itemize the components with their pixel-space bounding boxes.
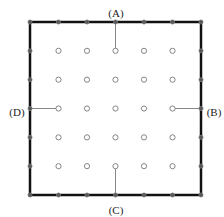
border-node [199, 164, 203, 168]
border-node [57, 193, 61, 197]
border-node [199, 20, 203, 24]
interior-node [170, 106, 175, 111]
interior-node [56, 48, 61, 53]
interior-node [170, 164, 175, 169]
interior-node [56, 164, 61, 169]
interior-node [141, 77, 146, 82]
interior-node [84, 77, 89, 82]
interior-node [56, 77, 61, 82]
border-node [28, 78, 32, 82]
border-node [171, 193, 175, 197]
label-c: (C) [109, 204, 124, 217]
border-node [85, 193, 89, 197]
border-node [171, 20, 175, 24]
border-node [199, 49, 203, 53]
interior-node [113, 77, 118, 82]
border-node [142, 20, 146, 24]
interior-node [113, 48, 118, 53]
resistor-grid-diagram: (A) (B) (C) (D) [0, 0, 224, 217]
interior-node [141, 135, 146, 140]
interior-node [170, 77, 175, 82]
interior-node [141, 164, 146, 169]
interior-node [170, 48, 175, 53]
border-node [114, 20, 118, 24]
border-node [199, 78, 203, 82]
border-node [28, 20, 32, 24]
label-a: (A) [108, 7, 124, 20]
label-d: (D) [9, 106, 25, 119]
interior-node [170, 135, 175, 140]
border-node [57, 20, 61, 24]
interior-node [84, 135, 89, 140]
border-node [114, 193, 118, 197]
interior-node [141, 106, 146, 111]
interior-node [56, 106, 61, 111]
border-node [28, 49, 32, 53]
border-node [199, 193, 203, 197]
border-node [142, 193, 146, 197]
interior-node [56, 135, 61, 140]
border-node [199, 107, 203, 111]
border-node [28, 193, 32, 197]
border-node [199, 135, 203, 139]
interior-node [84, 164, 89, 169]
interior-node [84, 48, 89, 53]
border-node [28, 164, 32, 168]
border-node [28, 135, 32, 139]
border-node [28, 107, 32, 111]
interior-node [113, 106, 118, 111]
interior-node [113, 135, 118, 140]
interior-node [84, 106, 89, 111]
border-node [85, 20, 89, 24]
label-b: (B) [207, 106, 222, 119]
interior-node [141, 48, 146, 53]
interior-node [113, 164, 118, 169]
